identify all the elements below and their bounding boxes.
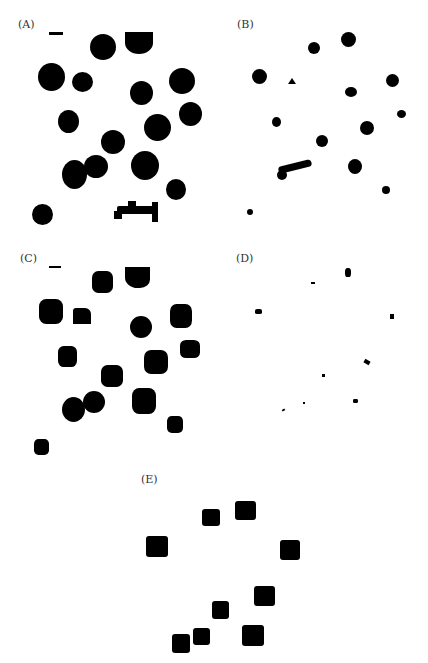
square-blob [254,586,275,606]
square-blob [242,625,264,646]
square-blob [280,540,300,560]
square-blob [146,536,168,557]
square-blob [235,501,256,520]
panel-e: (E) [0,0,428,663]
square-blob [172,634,190,653]
square-blob [202,509,220,526]
panel-label-e: (E) [141,473,158,486]
square-blob [212,601,229,619]
square-blob [193,628,210,645]
